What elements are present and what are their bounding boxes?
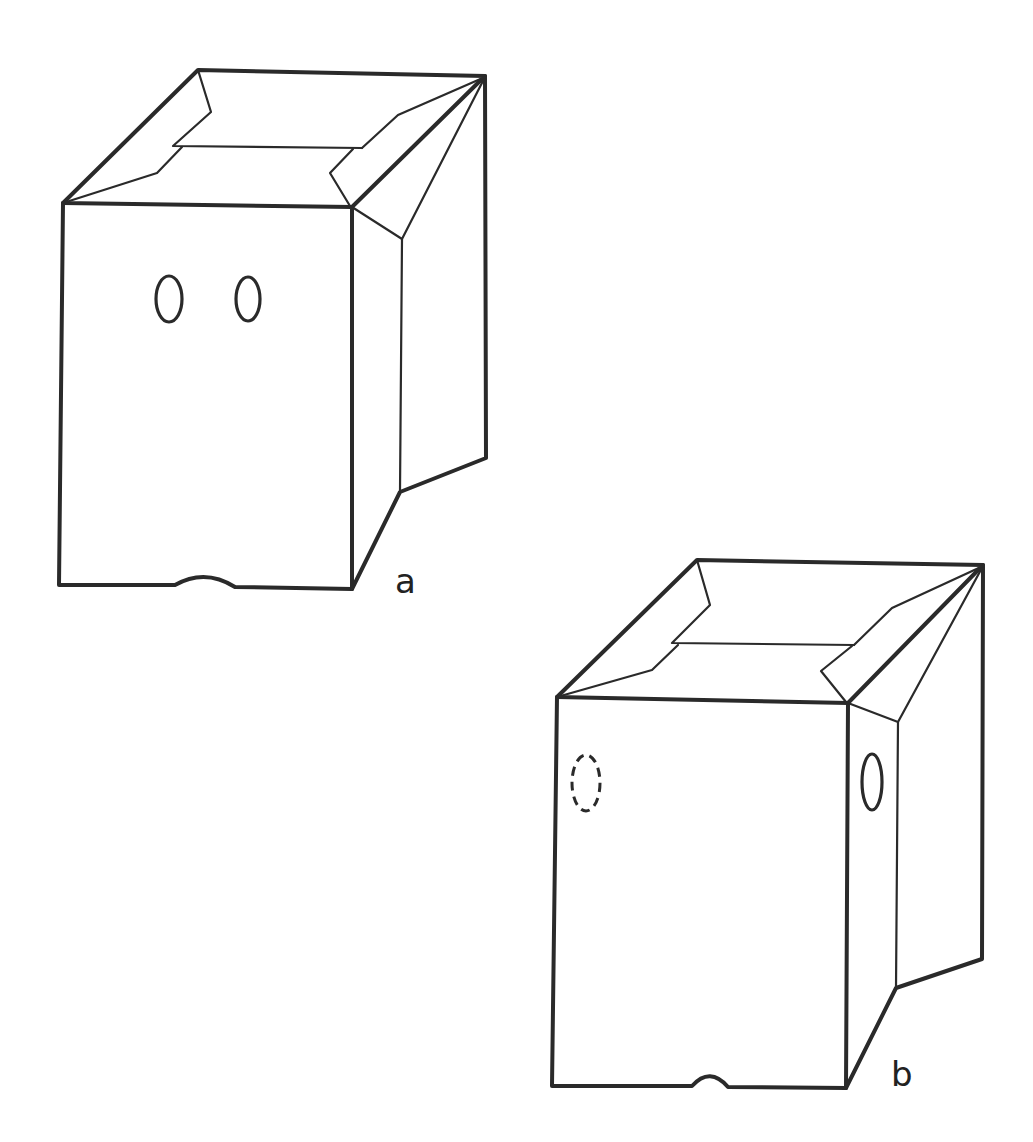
box-a-right-flap-lower <box>330 149 353 206</box>
box-a-left-flap-lower <box>63 147 182 203</box>
box-b-right-flap-lower <box>821 646 852 702</box>
box-a-back-edge <box>352 76 486 589</box>
box-b-side-flap <box>848 566 983 722</box>
box-b-side-inner <box>896 722 898 988</box>
box-a-side-inner <box>400 239 402 492</box>
diagram-canvas: a b <box>0 0 1033 1142</box>
box-b-left-flap-lower <box>557 645 678 697</box>
box-a-left-flap <box>173 70 362 148</box>
box-a-label: a <box>395 561 416 601</box>
box-a-side-flap <box>352 77 485 239</box>
box-a-front-face <box>59 203 352 589</box>
box-a-hole-left <box>156 276 182 322</box>
box-a-top-rim <box>63 70 485 207</box>
box-a: a <box>59 70 486 601</box>
box-b-side-hole <box>862 754 882 810</box>
box-b-hidden-hole <box>572 755 600 811</box>
box-b-back-edge <box>846 565 983 1088</box>
box-a-hole-right <box>236 277 260 321</box>
box-b: b <box>552 560 983 1094</box>
box-b-front-face <box>552 697 848 1088</box>
box-b-label: b <box>891 1054 913 1094</box>
box-b-left-flap <box>672 560 854 645</box>
